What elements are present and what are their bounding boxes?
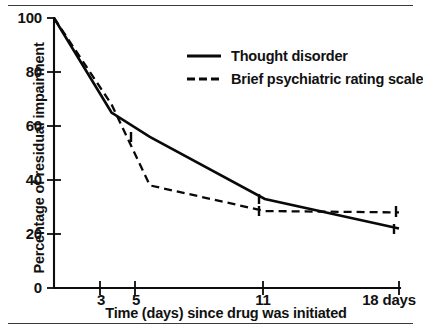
x-axis-title: Time (days) since drug was initiated <box>53 305 399 321</box>
legend-item-thought-disorder: Thought disorder <box>186 44 418 67</box>
legend-label-brief-psychiatric-rating-scale: Brief psychiatric rating scale <box>231 71 423 87</box>
legend-key-solid-icon <box>186 50 222 62</box>
y-tick-label-100: 100 <box>2 9 42 26</box>
legend-item-brief-psychiatric-rating-scale: Brief psychiatric rating scale <box>186 67 418 90</box>
legend-label-thought-disorder: Thought disorder <box>231 48 348 64</box>
chart-legend: Thought disorder Brief psychiatric ratin… <box>186 44 418 90</box>
y-axis-title: Percentage of residual impairment <box>31 33 47 283</box>
legend-key-dashed-icon <box>186 73 222 85</box>
